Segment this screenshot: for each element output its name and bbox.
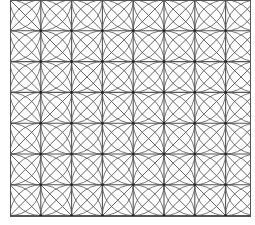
pattern-node — [224, 30, 227, 33]
pattern-line — [0, 185, 10, 216]
pattern-node — [70, 30, 73, 33]
pattern-node — [132, 153, 135, 156]
pattern-line — [0, 62, 10, 93]
pattern-node — [70, 91, 73, 94]
pattern-line — [164, 216, 195, 225]
pattern-node — [101, 153, 104, 156]
pattern-node — [163, 91, 166, 94]
pattern-node — [40, 91, 43, 94]
pattern-arc — [0, 216, 41, 225]
pattern-node — [194, 122, 197, 125]
pattern-line — [0, 216, 10, 225]
pattern-line — [102, 216, 133, 225]
pattern-arc — [41, 216, 103, 225]
pattern-node — [132, 60, 135, 63]
pattern-node — [132, 122, 135, 125]
pattern-node — [224, 122, 227, 125]
pattern-node — [70, 153, 73, 156]
pattern-arc — [10, 216, 72, 225]
pattern-node — [40, 60, 43, 63]
pattern-arc — [0, 154, 10, 216]
pattern-line — [0, 154, 10, 185]
pattern-arc — [0, 185, 10, 225]
pattern-node — [163, 184, 166, 187]
pattern-node — [194, 60, 197, 63]
pattern-node — [101, 184, 104, 187]
pattern-arc — [102, 216, 164, 225]
pattern-node — [101, 91, 104, 94]
pattern-node — [40, 153, 43, 156]
pattern-line — [226, 216, 255, 225]
pattern-line — [72, 216, 103, 225]
pattern-arc — [0, 0, 10, 31]
pattern-arc — [0, 216, 10, 225]
pattern-arc — [0, 31, 10, 93]
pattern-arc — [133, 216, 195, 225]
pattern-node — [224, 91, 227, 94]
pattern-node — [163, 122, 166, 125]
pattern-line — [226, 216, 255, 225]
pattern-line — [0, 0, 10, 31]
pattern-line — [133, 216, 164, 225]
pattern-line — [0, 31, 10, 62]
pattern-arc — [0, 92, 10, 154]
pattern-arc — [164, 216, 226, 225]
pattern-line — [72, 216, 103, 225]
pattern-node — [163, 60, 166, 63]
pattern-node — [40, 122, 43, 125]
pattern-line — [0, 216, 10, 225]
pattern-line — [10, 216, 41, 225]
pattern-node — [132, 91, 135, 94]
pattern-arc — [72, 216, 134, 225]
pattern-node — [40, 30, 43, 33]
pattern-node — [224, 184, 227, 187]
pattern-line — [195, 216, 226, 225]
pattern-line — [0, 31, 10, 62]
pattern-node — [194, 153, 197, 156]
pattern-line — [133, 216, 164, 225]
pattern-lines — [0, 0, 255, 225]
pattern-line — [0, 0, 10, 31]
pattern-line — [102, 216, 133, 225]
pattern-node — [194, 91, 197, 94]
pattern-node — [101, 122, 104, 125]
pattern-line — [0, 123, 10, 154]
pattern-arc — [0, 0, 10, 62]
pattern-node — [70, 184, 73, 187]
pattern-arc — [0, 62, 10, 124]
pattern-line — [10, 216, 41, 225]
pattern-node — [101, 30, 104, 33]
pattern-line — [0, 92, 10, 123]
pattern-arc — [195, 216, 255, 225]
pattern-line — [0, 62, 10, 93]
pattern-node — [132, 184, 135, 187]
pattern-node — [101, 60, 104, 63]
geometric-pattern — [0, 0, 255, 225]
pattern-node — [163, 30, 166, 33]
pattern-line — [164, 216, 195, 225]
pattern-node — [70, 60, 73, 63]
pattern-node — [194, 184, 197, 187]
pattern-node — [132, 30, 135, 33]
pattern-arc — [0, 123, 10, 185]
pattern-line — [0, 154, 10, 185]
pattern-line — [0, 123, 10, 154]
pattern-arc — [0, 0, 41, 31]
pattern-line — [41, 216, 72, 225]
pattern-node — [194, 30, 197, 33]
pattern-node — [70, 122, 73, 125]
pattern-node — [40, 184, 43, 187]
pattern-arc — [226, 216, 255, 225]
pattern-node — [224, 153, 227, 156]
pattern-node — [224, 60, 227, 63]
pattern-line — [195, 216, 226, 225]
pattern-node — [163, 153, 166, 156]
pattern-line — [0, 185, 10, 216]
pattern-line — [41, 216, 72, 225]
pattern-line — [0, 92, 10, 123]
